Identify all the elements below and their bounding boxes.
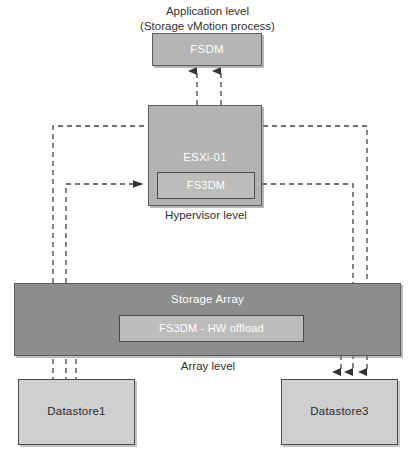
datastore3-node[interactable]: Datastore3: [281, 379, 398, 445]
application-level-title-line1: Application level: [166, 5, 249, 17]
fsdm-node-label: FSDM: [190, 43, 223, 57]
fs3dm-node-label: FS3DM: [187, 179, 225, 192]
datastore1-label: Datastore1: [47, 405, 105, 419]
esxi-host-label: ESXi-01: [149, 151, 261, 165]
fs3dm-node[interactable]: FS3DM: [157, 172, 255, 199]
array-level-label: Array level: [120, 360, 296, 372]
storage-array-node[interactable]: Storage Array FS3DM - HW offload: [14, 283, 401, 356]
hw-offload-node-label: FS3DM - HW offload: [159, 322, 264, 335]
esxi-host-node[interactable]: ESXi-01 FS3DM: [148, 105, 262, 206]
diagram-canvas: Application level (Storage vMotion proce…: [0, 0, 415, 462]
application-level-title-line2: (Storage vMotion process): [0, 19, 415, 34]
application-level-title: Application level (Storage vMotion proce…: [0, 4, 415, 34]
storage-array-label: Storage Array: [15, 293, 400, 307]
hypervisor-level-label: Hypervisor level: [118, 209, 294, 221]
fsdm-node[interactable]: FSDM: [152, 33, 262, 66]
datastore3-label: Datastore3: [310, 405, 368, 419]
hw-offload-node[interactable]: FS3DM - HW offload: [119, 315, 304, 342]
datastore1-node[interactable]: Datastore1: [18, 379, 135, 445]
